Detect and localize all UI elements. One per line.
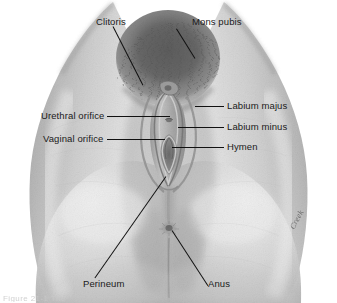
leader-line-labium-minus	[178, 127, 224, 128]
leader-line-labium-majus	[195, 106, 224, 107]
leader-line-urethral-orifice	[107, 116, 170, 117]
leader-line-hymen	[172, 147, 224, 148]
label-anus: Anus	[208, 278, 230, 289]
label-labium-majus: Labium majus	[227, 100, 287, 111]
figure-caption-cropped: Figure 21-1 The	[3, 294, 66, 302]
label-labium-minus: Labium minus	[227, 121, 287, 132]
leader-line-vaginal-orifice	[107, 139, 165, 140]
label-mons-pubis: Mons pubis	[192, 16, 242, 27]
anatomical-figure: Clitoris Mons pubis Urethral orifice Vag…	[0, 0, 337, 303]
external-genitalia-illustration	[0, 0, 337, 303]
label-clitoris: Clitoris	[96, 16, 126, 27]
label-hymen: Hymen	[227, 141, 258, 152]
label-perineum: Perineum	[83, 278, 124, 289]
label-vaginal-orifice: Vaginal orifice	[43, 133, 103, 144]
label-urethral-orifice: Urethral orifice	[41, 110, 104, 121]
